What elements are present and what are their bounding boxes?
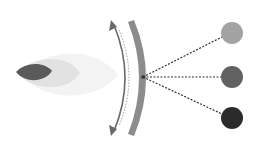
target-medium-circle — [221, 66, 243, 88]
focal-point — [141, 75, 145, 79]
optics-diagram — [0, 0, 259, 155]
target-light-circle — [221, 22, 243, 44]
target-dark-circle — [221, 107, 243, 129]
